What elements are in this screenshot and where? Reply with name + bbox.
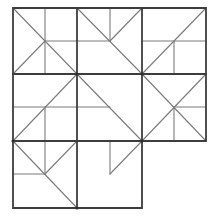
- junction-dot: [75, 206, 78, 209]
- junction-dot: [75, 72, 78, 75]
- junction-dot: [140, 139, 143, 142]
- junction-dot: [140, 72, 143, 75]
- background: [0, 0, 213, 218]
- puzzle-figure: [0, 0, 213, 218]
- junction-dot: [11, 139, 14, 142]
